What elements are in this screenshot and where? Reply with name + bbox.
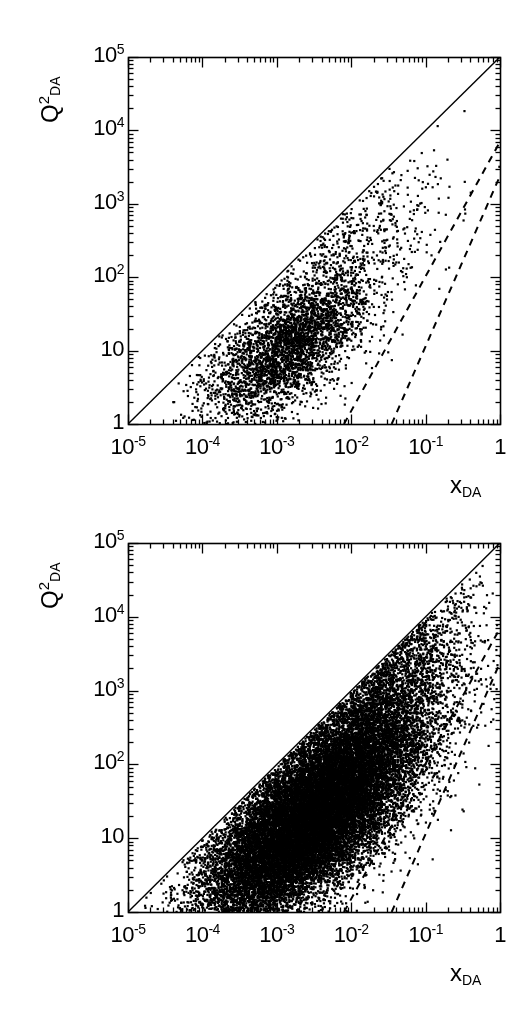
y-tick-label-bottom-0: 105 xyxy=(93,530,124,552)
x-tick-exponent-top-3: -2 xyxy=(357,433,368,449)
x-tick-label-bottom-0: 10-5 xyxy=(98,924,158,946)
x-tick-exponent-bottom-3: -2 xyxy=(357,921,368,937)
figure-root: Q2DA xDA 105104103102101 10-510-410-310-… xyxy=(0,0,529,1027)
x-tick-base-top-3: 10 xyxy=(334,434,357,459)
y-tick-exponent-top-2: 3 xyxy=(117,187,124,203)
y-tick-exponent-bottom-2: 3 xyxy=(117,674,124,690)
y-tick-base-bottom-2: 10 xyxy=(93,676,116,701)
x-tick-base-bottom-0: 10 xyxy=(111,922,134,947)
x-tick-label-top-5: 1 xyxy=(470,436,529,458)
x-tick-base-bottom-1: 10 xyxy=(185,922,208,947)
y-tick-base-bottom-3: 10 xyxy=(93,749,116,774)
y-axis-title-main-bottom: Q xyxy=(36,590,63,609)
y-tick-exponent-top-3: 2 xyxy=(117,261,124,277)
x-tick-base-top-1: 10 xyxy=(185,434,208,459)
y-axis-title-sub-bottom: DA xyxy=(47,563,63,582)
y-axis-title-sup-bottom: 2 xyxy=(35,582,52,590)
y-axis-title-sup-top: 2 xyxy=(35,96,52,104)
x-tick-label-top-1: 10-4 xyxy=(172,436,232,458)
y-tick-exponent-top-0: 5 xyxy=(117,41,124,57)
x-tick-exponent-bottom-2: -3 xyxy=(283,921,294,937)
x-tick-exponent-top-2: -3 xyxy=(283,433,294,449)
y-axis-title-bottom: Q2DA xyxy=(36,563,64,609)
x-tick-label-top-0: 10-5 xyxy=(98,436,158,458)
y-tick-base-top-1: 10 xyxy=(93,115,116,140)
y-tick-label-top-4: 10 xyxy=(101,338,124,360)
x-tick-label-bottom-4: 10-1 xyxy=(396,924,456,946)
y-tick-label-top-1: 104 xyxy=(93,117,124,139)
x-axis-title-main-bottom: x xyxy=(450,959,462,986)
x-tick-exponent-bottom-1: -4 xyxy=(208,921,219,937)
x-tick-base-bottom-2: 10 xyxy=(259,922,282,947)
y-tick-label-top-5: 1 xyxy=(112,411,124,433)
x-tick-base-top-4: 10 xyxy=(408,434,431,459)
y-tick-label-bottom-5: 1 xyxy=(112,899,124,921)
y-tick-base-bottom-0: 10 xyxy=(93,528,116,553)
y-tick-base-top-3: 10 xyxy=(93,262,116,287)
y-tick-base-bottom-1: 10 xyxy=(93,602,116,627)
y-tick-label-bottom-3: 102 xyxy=(93,751,124,773)
x-tick-base-bottom-3: 10 xyxy=(334,922,357,947)
x-tick-label-bottom-3: 10-2 xyxy=(321,924,381,946)
x-tick-label-bottom-5: 1 xyxy=(470,924,529,946)
y-axis-title-sub-top: DA xyxy=(47,77,63,96)
x-tick-exponent-top-0: -5 xyxy=(134,433,145,449)
x-tick-base-bottom-4: 10 xyxy=(408,922,431,947)
y-tick-base-top-0: 10 xyxy=(93,42,116,67)
y-tick-base-bottom-5: 1 xyxy=(112,897,124,922)
y-tick-label-top-3: 102 xyxy=(93,264,124,286)
y-tick-base-top-5: 1 xyxy=(112,409,124,434)
y-tick-exponent-bottom-0: 5 xyxy=(117,527,124,543)
x-tick-base-top-0: 10 xyxy=(111,434,134,459)
y-tick-label-top-2: 103 xyxy=(93,191,124,213)
y-axis-title-main-top: Q xyxy=(36,104,63,123)
x-tick-exponent-top-1: -4 xyxy=(208,433,219,449)
y-axis-title-top: Q2DA xyxy=(36,77,64,123)
x-tick-base-top-5: 1 xyxy=(494,434,506,459)
y-tick-label-bottom-1: 104 xyxy=(93,604,124,626)
x-tick-label-bottom-2: 10-3 xyxy=(247,924,307,946)
scatter-panel-top: Q2DA xDA 105104103102101 10-510-410-310-… xyxy=(0,0,529,510)
x-axis-title-bottom: xDA xyxy=(450,959,481,987)
y-tick-exponent-bottom-1: 4 xyxy=(117,600,124,616)
x-tick-label-top-4: 10-1 xyxy=(396,436,456,458)
y-tick-exponent-bottom-3: 2 xyxy=(117,748,124,764)
x-tick-label-top-3: 10-2 xyxy=(321,436,381,458)
caption-strip xyxy=(0,1004,529,1027)
y-tick-base-top-2: 10 xyxy=(93,189,116,214)
x-tick-base-bottom-5: 1 xyxy=(494,922,506,947)
x-tick-label-top-2: 10-3 xyxy=(247,436,307,458)
y-tick-label-bottom-4: 10 xyxy=(101,825,124,847)
x-axis-title-sub-bottom: DA xyxy=(462,972,481,988)
y-tick-label-bottom-2: 103 xyxy=(93,678,124,700)
x-tick-label-bottom-1: 10-4 xyxy=(172,924,232,946)
y-tick-exponent-top-1: 4 xyxy=(117,114,124,130)
y-tick-base-bottom-4: 10 xyxy=(101,823,124,848)
scatter-panel-bottom: Q2DA xDA 105104103102101 10-510-410-310-… xyxy=(0,486,529,1027)
x-tick-exponent-top-4: -1 xyxy=(432,433,443,449)
x-tick-base-top-2: 10 xyxy=(259,434,282,459)
x-tick-exponent-bottom-0: -5 xyxy=(134,921,145,937)
y-tick-label-top-0: 105 xyxy=(93,44,124,66)
x-tick-exponent-bottom-4: -1 xyxy=(432,921,443,937)
y-tick-base-top-4: 10 xyxy=(101,336,124,361)
